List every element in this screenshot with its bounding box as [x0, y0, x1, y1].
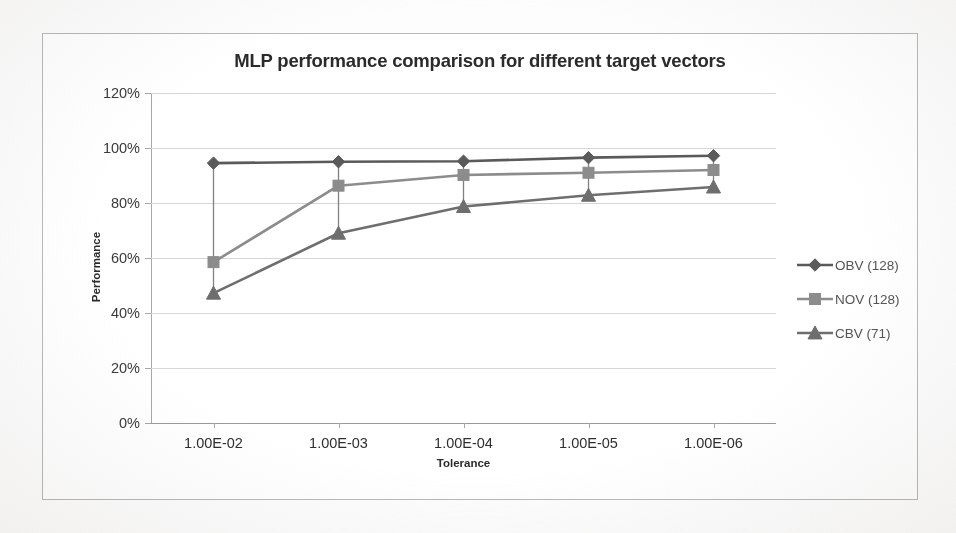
- legend-item[interactable]: CBV (71): [796, 316, 916, 350]
- data-point-marker: [458, 169, 469, 180]
- data-point-marker: [583, 167, 594, 178]
- y-axis-tick-label: 100%: [103, 140, 140, 156]
- series-plot: [151, 93, 776, 423]
- x-axis-tick-label: 1.00E-03: [309, 435, 368, 451]
- data-point-marker: [207, 286, 221, 299]
- x-axis-tick-label: 1.00E-06: [684, 435, 743, 451]
- legend-item[interactable]: OBV (128): [796, 248, 916, 282]
- legend-marker-triangle-icon: [796, 325, 834, 341]
- legend-label: NOV (128): [835, 292, 900, 307]
- x-axis-tick: [714, 423, 715, 428]
- chart-title: MLP performance comparison for different…: [43, 50, 917, 72]
- data-point-marker: [809, 259, 821, 271]
- x-axis-tick: [589, 423, 590, 428]
- y-axis-tick-label: 20%: [111, 360, 140, 376]
- data-point-marker: [333, 180, 344, 191]
- data-point-marker: [457, 155, 469, 167]
- data-point-marker: [707, 150, 719, 162]
- y-axis-tick-label: 120%: [103, 85, 140, 101]
- y-axis-tick: [145, 423, 151, 424]
- data-point-marker: [208, 257, 219, 268]
- y-axis-tick-label: 60%: [111, 250, 140, 266]
- y-axis-title: Performance: [90, 231, 102, 301]
- data-point-marker: [207, 157, 219, 169]
- x-axis-tick-label: 1.00E-05: [559, 435, 618, 451]
- series-obv: [207, 150, 719, 170]
- legend-marker-square-icon: [796, 291, 834, 307]
- y-axis-tick-label: 80%: [111, 195, 140, 211]
- x-axis-tick: [339, 423, 340, 428]
- legend: OBV (128)NOV (128)CBV (71): [796, 248, 916, 350]
- x-axis-tick-label: 1.00E-04: [434, 435, 493, 451]
- y-axis-tick-label: 0%: [119, 415, 140, 431]
- legend-label: OBV (128): [835, 258, 899, 273]
- x-axis-tick: [464, 423, 465, 428]
- x-axis-tick-label: 1.00E-02: [184, 435, 243, 451]
- legend-label: CBV (71): [835, 326, 891, 341]
- chart-frame: MLP performance comparison for different…: [42, 33, 918, 500]
- data-point-marker: [708, 165, 719, 176]
- plot-area: 0%20%40%60%80%100%120% 1.00E-021.00E-031…: [151, 93, 776, 423]
- data-point-marker: [582, 151, 594, 163]
- x-axis-title: Tolerance: [151, 457, 776, 469]
- data-point-marker: [332, 156, 344, 168]
- data-point-marker: [810, 294, 821, 305]
- x-axis-tick: [214, 423, 215, 428]
- legend-marker-diamond-icon: [796, 257, 834, 273]
- y-axis-tick-label: 40%: [111, 305, 140, 321]
- scanned-page: MLP performance comparison for different…: [0, 0, 956, 533]
- series-nov: [208, 165, 719, 268]
- legend-item[interactable]: NOV (128): [796, 282, 916, 316]
